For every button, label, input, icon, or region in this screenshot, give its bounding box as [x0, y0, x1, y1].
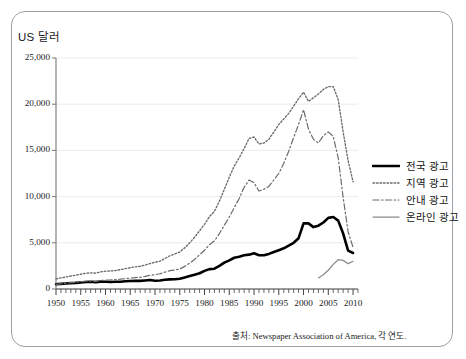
legend-item: 전국 광고 [372, 157, 464, 174]
y-tick-label: 15,000 [8, 144, 50, 154]
y-tick-label: 25,000 [8, 52, 50, 62]
legend-item: 온라인 광고 [372, 208, 464, 225]
legend-swatch-dash-dot [372, 194, 400, 206]
legend-label: 지역 광고 [406, 175, 449, 190]
y-tick-label: 20,000 [8, 98, 50, 108]
legend-label: 온라인 광고 [406, 209, 459, 224]
y-tick-label: 10,000 [8, 191, 50, 201]
series-line [318, 260, 353, 278]
legend-item: 안내 광고 [372, 191, 464, 208]
chart-legend: 전국 광고지역 광고안내 광고온라인 광고 [372, 157, 464, 225]
y-tick-label: 0 [8, 283, 50, 293]
source-note: 출처: Newspaper Association of America, 각 … [232, 329, 407, 341]
y-tick-label: 5,000 [8, 237, 50, 247]
legend-swatch-thin-solid [372, 211, 400, 223]
legend-label: 안내 광고 [406, 192, 449, 207]
legend-swatch-dotted [372, 177, 400, 189]
x-tick-label: 2010 [336, 298, 370, 308]
legend-item: 지역 광고 [372, 174, 464, 191]
legend-label: 전국 광고 [406, 158, 449, 173]
legend-swatch-thick-solid [372, 160, 400, 172]
